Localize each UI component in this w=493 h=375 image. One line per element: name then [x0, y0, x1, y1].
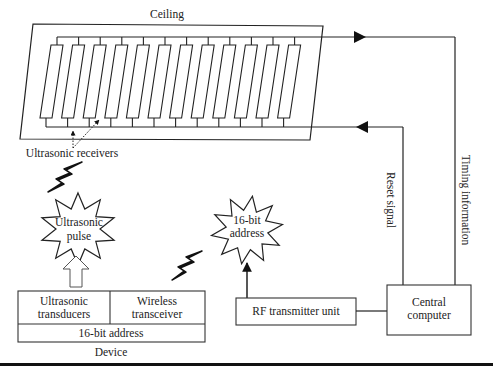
ceiling-label: Ceiling	[150, 8, 184, 21]
ultrasonic-receiver	[126, 37, 149, 127]
ultrasonic-receiver	[234, 37, 257, 127]
ultrasonic-receiver	[256, 37, 279, 127]
ceiling-panel	[20, 24, 323, 140]
transceiver-line1: Wireless	[137, 295, 177, 307]
reset-arrow-icon	[356, 121, 368, 133]
device-label: Device	[95, 346, 128, 358]
transducers-line1: Ultrasonic	[40, 295, 88, 307]
ultrasonic-receiver	[105, 37, 128, 127]
ultrasonic-positioning-diagram: Ceiling Reset signal Timing information …	[0, 0, 493, 375]
central-computer-line1: Central	[412, 296, 446, 308]
address-burst-line2: address	[230, 227, 265, 239]
ultrasonic-pulse-burst	[42, 193, 114, 265]
timing-information-label: Timing information	[459, 155, 472, 246]
central-computer-line2: computer	[407, 309, 451, 322]
ultrasonic-receivers-label: Ultrasonic receivers	[26, 147, 119, 159]
reset-signal-label: Reset signal	[384, 172, 397, 228]
ultrasonic-receiver-array	[40, 37, 301, 127]
ultrasonic-receiver	[40, 37, 63, 127]
transducers-line2: transducers	[38, 308, 91, 320]
ultrasonic-pulse-line2: pulse	[67, 230, 91, 243]
device-address-cell: 16-bit address	[79, 327, 144, 339]
address-burst-line1: 16-bit	[233, 214, 261, 226]
ultrasonic-receiver	[170, 37, 193, 127]
transceiver-line2: transceiver	[132, 308, 183, 320]
ultrasonic-pulse-line1: Ultrasonic	[55, 216, 103, 228]
lightning-bolt-icon	[172, 251, 202, 280]
hollow-up-arrow-icon	[63, 256, 89, 287]
lightning-bolt-icon	[48, 162, 82, 192]
timing-arrow-icon	[354, 31, 366, 43]
ultrasonic-receiver	[83, 37, 106, 127]
ultrasonic-receiver	[148, 37, 171, 127]
ultrasonic-receiver	[191, 37, 214, 127]
rf-transmitter-label: RF transmitter unit	[252, 305, 340, 317]
bottom-rule	[0, 363, 493, 366]
receiver-pointer-2	[73, 120, 99, 148]
ultrasonic-receiver	[278, 37, 301, 127]
ultrasonic-receiver	[213, 37, 236, 127]
ultrasonic-receiver	[62, 37, 85, 127]
